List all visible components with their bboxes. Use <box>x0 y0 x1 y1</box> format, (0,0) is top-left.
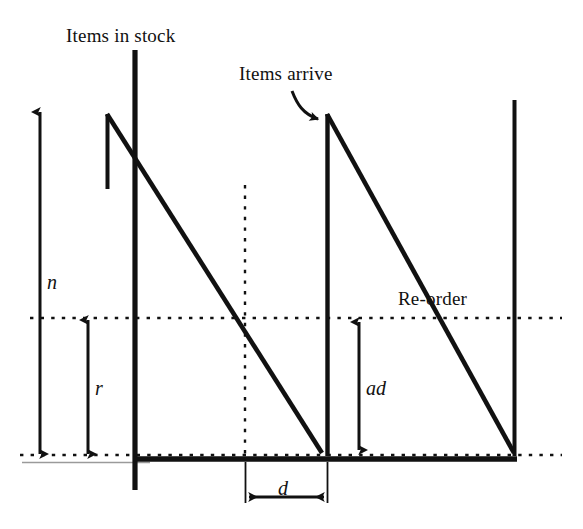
d-dimension-label: d <box>278 478 288 498</box>
reorder-label: Re-order <box>398 289 467 308</box>
items-in-stock-label: Items in stock <box>66 26 175 45</box>
inventory-reorder-diagram: Items in stock Items arrive Re-order n r… <box>0 0 583 529</box>
items-arrive-label: Items arrive <box>239 64 333 83</box>
stock-curve-decline-2 <box>327 114 514 453</box>
n-dimension-label: n <box>47 272 57 292</box>
items-arrive-callout-arrow <box>292 91 318 119</box>
stock-curve-decline-1 <box>107 114 322 453</box>
r-dimension-label: r <box>95 378 103 398</box>
ad-dimension-label: ad <box>366 378 386 398</box>
